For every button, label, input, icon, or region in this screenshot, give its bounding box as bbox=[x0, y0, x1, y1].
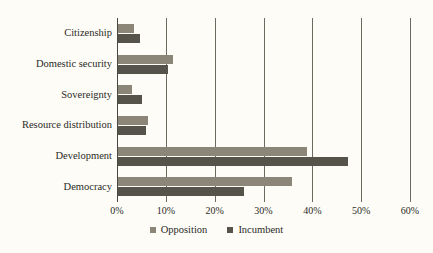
bar bbox=[117, 34, 140, 43]
category-label: Sovereignty bbox=[61, 89, 112, 101]
gridline bbox=[312, 18, 313, 202]
x-axis-tick-label: 10% bbox=[146, 205, 186, 217]
bar bbox=[117, 85, 132, 94]
category-label: Resource distribution bbox=[22, 119, 112, 131]
bar bbox=[117, 126, 146, 135]
x-axis-tick-label: 0% bbox=[97, 205, 137, 217]
bar bbox=[117, 116, 148, 125]
gridline bbox=[166, 18, 167, 202]
gridline bbox=[215, 18, 216, 202]
chart-legend: OppositionIncumbent bbox=[0, 222, 433, 236]
legend-item: Opposition bbox=[150, 223, 208, 236]
bar bbox=[117, 24, 134, 33]
category-label: Citizenship bbox=[64, 27, 112, 39]
category-label: Development bbox=[55, 150, 112, 162]
x-axis-tick-label: 50% bbox=[341, 205, 381, 217]
gridline bbox=[264, 18, 265, 202]
legend-label: Incumbent bbox=[238, 224, 283, 235]
gridline bbox=[361, 18, 362, 202]
legend-item: Incumbent bbox=[227, 223, 283, 236]
bar bbox=[117, 95, 142, 104]
x-axis-tick-label: 30% bbox=[244, 205, 284, 217]
gridline bbox=[410, 18, 411, 202]
legend-swatch-icon bbox=[150, 227, 156, 233]
legend-label: Opposition bbox=[161, 224, 208, 235]
legend-swatch-icon bbox=[227, 227, 233, 233]
bar bbox=[117, 55, 173, 64]
bar bbox=[117, 177, 292, 186]
bar bbox=[117, 147, 307, 156]
bar bbox=[117, 187, 244, 196]
bar-chart: CitizenshipDomestic securitySovereigntyR… bbox=[0, 0, 433, 253]
x-axis-tick-label: 40% bbox=[292, 205, 332, 217]
bar bbox=[117, 157, 348, 166]
category-axis-labels: CitizenshipDomestic securitySovereigntyR… bbox=[0, 18, 112, 202]
category-label: Domestic security bbox=[36, 58, 112, 70]
x-axis-tick-label: 20% bbox=[195, 205, 235, 217]
plot-area bbox=[117, 18, 410, 202]
x-axis-tick-label: 60% bbox=[390, 205, 430, 217]
bar bbox=[117, 65, 168, 74]
value-axis-line bbox=[117, 18, 118, 202]
category-label: Democracy bbox=[64, 181, 112, 193]
